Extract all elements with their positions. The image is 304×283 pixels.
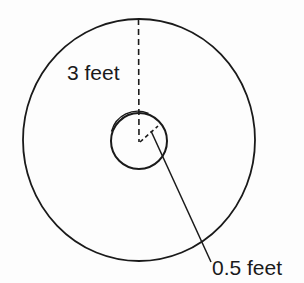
outer-radius-label: 3 feet [67, 62, 120, 83]
outer-radius-dashed-line [139, 19, 140, 142]
diagram-canvas [0, 0, 304, 283]
concentric-circles-figure: 3 feet 0.5 feet [0, 0, 304, 283]
inner-radius-leader-line [151, 131, 211, 262]
inner-radius-label: 0.5 feet [212, 257, 282, 278]
